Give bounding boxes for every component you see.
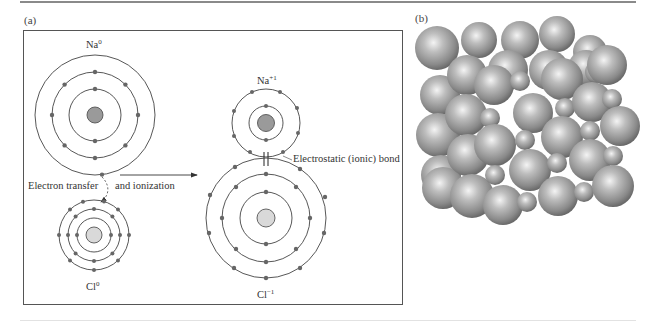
ionic-bond-mark bbox=[264, 152, 268, 166]
cl-neutral-label: Cl0 bbox=[86, 280, 100, 292]
electron-transfer-label: Electron transfer bbox=[28, 180, 99, 191]
nacl-lattice-model bbox=[415, 16, 640, 225]
na-ion-label: Na+1 bbox=[257, 74, 277, 86]
na-neutral-label: Na0 bbox=[86, 38, 102, 50]
na-ion bbox=[232, 89, 300, 157]
bond-leader-line bbox=[283, 156, 292, 160]
cl-ion bbox=[206, 158, 327, 280]
na-neutral-atom bbox=[35, 55, 155, 177]
cl-ion-label: Cl−1 bbox=[257, 288, 275, 300]
ionic-bond-label: Electrostatic (ionic) bond bbox=[293, 153, 400, 165]
electron-transfer-arrow bbox=[101, 177, 108, 202]
ionization-label: and ionization bbox=[115, 180, 176, 191]
panel-a-diagram: Na0 Electron transfer and ionization Cl0 bbox=[0, 0, 651, 322]
cl-neutral-atom bbox=[57, 200, 131, 273]
